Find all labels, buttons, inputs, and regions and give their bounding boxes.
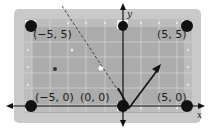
y-axis-arrow-up: [120, 3, 126, 10]
x-axis-arrow-right: [198, 103, 205, 109]
label-pocket-neg5-5: (−5, 5): [33, 29, 72, 40]
ball-dark: [53, 67, 57, 71]
rail-bottom: [24, 104, 192, 112]
x-axis-arrow-left: [6, 103, 13, 109]
label-pocket-5-0: (5, 0): [157, 92, 187, 103]
rail-top: [24, 19, 192, 27]
ball-white: [99, 66, 104, 71]
y-axis-label: y: [127, 10, 132, 19]
label-pocket-neg5-0: (−5, 0): [35, 92, 74, 103]
billiard-diagram: [0, 0, 215, 131]
label-pocket-5-5: (5, 5): [157, 29, 187, 40]
y-axis-arrow-down: [120, 120, 126, 127]
label-pocket-0-0: (0, 0): [80, 92, 110, 103]
ball-small: [71, 49, 74, 52]
pocket-0-5: [118, 21, 128, 31]
x-axis-label: x: [197, 111, 202, 120]
